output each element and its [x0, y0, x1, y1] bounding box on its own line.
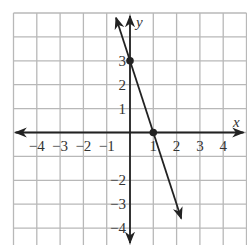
y-tick-label: −4 — [110, 220, 126, 236]
tick-labels: −4−3−2−11234321−2−3−4 — [29, 53, 228, 236]
y-axis-label: y — [134, 14, 143, 30]
x-tick-label: −3 — [52, 138, 68, 154]
y-tick-label: 1 — [119, 101, 127, 117]
y-tick-label: −2 — [110, 172, 126, 188]
plotted-line — [116, 18, 181, 219]
x-tick-label: −2 — [75, 138, 91, 154]
x-tick-label: −1 — [99, 138, 115, 154]
x-axis-label: x — [232, 114, 240, 130]
y-tick-label: 2 — [119, 77, 127, 93]
axes — [16, 16, 244, 243]
intercept-point — [126, 57, 134, 65]
x-tick-label: 4 — [219, 138, 227, 154]
function-line — [116, 18, 181, 219]
intercept-point — [150, 129, 158, 137]
x-tick-label: −4 — [29, 138, 45, 154]
x-tick-label: 2 — [173, 138, 181, 154]
y-tick-label: 3 — [119, 53, 127, 69]
x-tick-label: 3 — [196, 138, 204, 154]
y-tick-label: −3 — [110, 196, 126, 212]
coordinate-plane: −4−3−2−11234321−2−3−4 x y — [0, 0, 247, 245]
